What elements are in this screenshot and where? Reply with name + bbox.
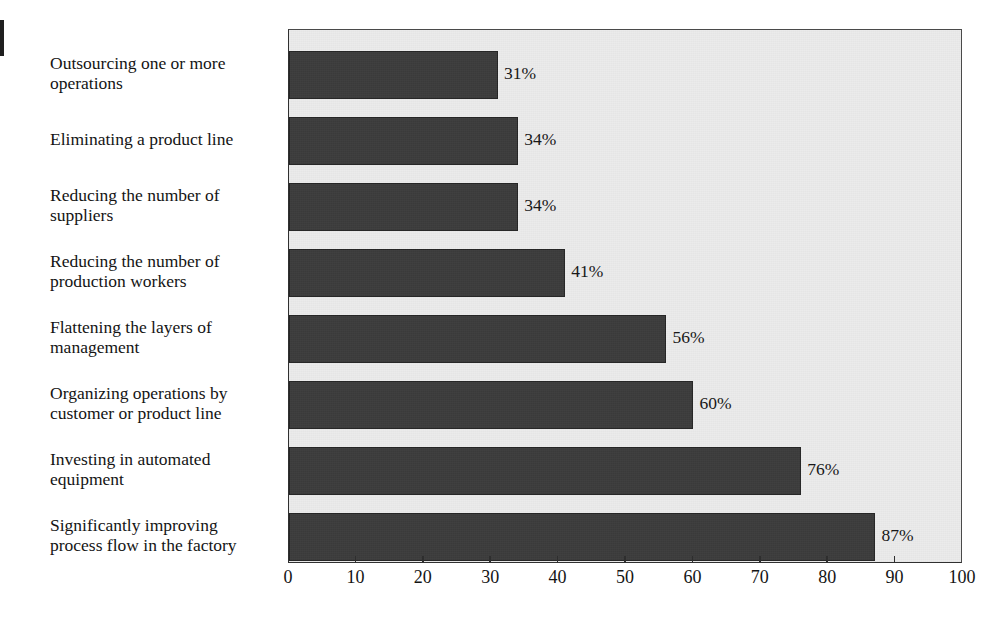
bar xyxy=(289,447,801,495)
x-axis-tick xyxy=(557,556,559,563)
category-label-line: Investing in automated xyxy=(50,449,282,469)
x-axis-tick-label: 30 xyxy=(481,568,499,586)
category-label-line: production workers xyxy=(50,271,282,291)
category-label-line: Outsourcing one or more xyxy=(50,53,282,73)
category-label-line: Reducing the number of xyxy=(50,185,282,205)
category-label-line: Eliminating a product line xyxy=(50,129,282,149)
x-axis-tick xyxy=(422,556,424,563)
x-axis-tick-label: 0 xyxy=(284,568,293,586)
x-axis-tick-label: 40 xyxy=(549,568,567,586)
bar xyxy=(289,513,875,561)
bar-value-label: 34% xyxy=(524,197,556,215)
category-label: Reducing the number ofproduction workers xyxy=(50,251,282,291)
x-axis-tick-label: 90 xyxy=(886,568,904,586)
bar-value-label: 56% xyxy=(672,329,704,347)
bar xyxy=(289,249,565,297)
category-label-line: customer or product line xyxy=(50,403,282,423)
bar xyxy=(289,183,518,231)
category-label: Outsourcing one or moreoperations xyxy=(50,53,282,93)
x-axis: 0102030405060708090100 xyxy=(288,556,962,606)
bar-value-label: 60% xyxy=(699,395,731,413)
bar xyxy=(289,51,498,99)
category-label-line: operations xyxy=(50,73,282,93)
category-label: Investing in automatedequipment xyxy=(50,449,282,489)
x-axis-tick xyxy=(894,556,896,563)
category-label-line: process flow in the factory xyxy=(50,535,282,555)
category-label: Flattening the layers ofmanagement xyxy=(50,317,282,357)
x-axis-tick xyxy=(624,556,626,563)
x-axis-tick-label: 80 xyxy=(818,568,836,586)
category-label-line: Organizing operations by xyxy=(50,383,282,403)
bar-value-label: 76% xyxy=(807,461,839,479)
category-label-line: equipment xyxy=(50,469,282,489)
bar-value-label: 34% xyxy=(524,131,556,149)
category-label: Organizing operations bycustomer or prod… xyxy=(50,383,282,423)
x-axis-tick xyxy=(355,556,357,563)
x-axis-tick xyxy=(826,556,828,563)
x-axis-tick xyxy=(489,556,491,563)
x-axis-tick-label: 10 xyxy=(346,568,364,586)
category-label-line: management xyxy=(50,337,282,357)
bar xyxy=(289,381,693,429)
x-axis-tick-label: 70 xyxy=(751,568,769,586)
x-axis-tick-label: 60 xyxy=(683,568,701,586)
x-axis-tick xyxy=(759,556,761,563)
plot-area xyxy=(288,29,962,563)
bar-value-label: 41% xyxy=(571,263,603,281)
x-axis-tick xyxy=(692,556,694,563)
x-axis-tick-label: 20 xyxy=(414,568,432,586)
bar xyxy=(289,117,518,165)
x-axis-tick-label: 50 xyxy=(616,568,634,586)
category-label-line: Flattening the layers of xyxy=(50,317,282,337)
category-label: Reducing the number ofsuppliers xyxy=(50,185,282,225)
bar-value-label: 87% xyxy=(881,527,913,545)
bar xyxy=(289,315,666,363)
x-axis-tick-label: 100 xyxy=(949,568,976,586)
bar-value-label: 31% xyxy=(504,65,536,83)
page-scan-artifact xyxy=(0,20,4,56)
category-label-line: Significantly improving xyxy=(50,515,282,535)
bar-chart-figure: Outsourcing one or moreoperationsElimina… xyxy=(0,0,994,621)
category-label: Eliminating a product line xyxy=(50,129,282,149)
category-label-line: suppliers xyxy=(50,205,282,225)
category-label-line: Reducing the number of xyxy=(50,251,282,271)
category-label: Significantly improvingprocess flow in t… xyxy=(50,515,282,555)
